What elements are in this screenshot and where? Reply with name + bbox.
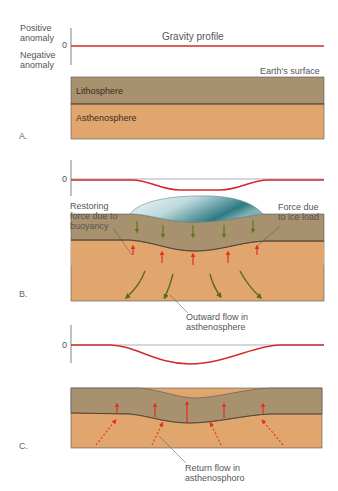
panel-c-label: C. <box>19 441 28 451</box>
negative-anomaly-label: Negative anomaly <box>20 50 56 70</box>
positive-anomaly-label: Positive anomaly <box>20 23 54 43</box>
outward-flow-label: Outward flow in asthenosphere <box>186 312 248 332</box>
buoyancy-label: Restoring force due to buoyancy <box>70 201 118 231</box>
return-flow-label: Return flow in asthenosphoro <box>185 463 245 483</box>
panel-b-label: B. <box>19 289 28 299</box>
zero-tick-label: 0 <box>62 40 67 50</box>
lithosphere-label: Lithosphere <box>76 86 123 96</box>
earths-surface-label: Earth's surface <box>260 66 320 76</box>
asthenosphere-label: Asthenosphere <box>76 113 137 123</box>
zero-tick-label: 0 <box>62 174 67 184</box>
panel-a-label: A. <box>19 131 28 141</box>
ice-load-label: Force due to ice load <box>278 202 319 222</box>
gravity-profile-title: Gravity profile <box>162 32 224 42</box>
gravity-profile-line <box>71 180 324 190</box>
zero-tick-label: 0 <box>62 340 67 350</box>
gravity-profile-line <box>71 345 324 364</box>
panel-c <box>71 325 324 463</box>
panel-b <box>71 160 324 313</box>
